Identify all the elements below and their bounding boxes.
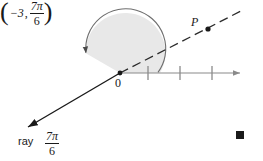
solid-ray-7pi-6 — [28, 73, 120, 127]
point-p-label: P — [191, 16, 198, 28]
end-of-example-marker — [236, 131, 244, 139]
ray-angle-fraction: 7π 6 — [45, 130, 59, 157]
point-p-dot — [205, 26, 210, 31]
close-paren: ) — [44, 1, 53, 23]
angle-sector-fill — [85, 13, 165, 73]
fraction-7pi-over-6: 7π 6 — [45, 130, 59, 157]
ray-word-label: ray — [18, 136, 33, 147]
fraction-numerator: 7π — [45, 130, 59, 142]
fraction-denominator: 6 — [48, 145, 56, 157]
origin-point — [118, 71, 123, 76]
figure-canvas — [0, 0, 263, 161]
polar-coordinate-figure: P 0 ray 7π 6 ( −3 , 7π 6 ) — [0, 0, 263, 161]
open-paren: ( — [0, 1, 9, 23]
origin-label: 0 — [115, 77, 121, 89]
